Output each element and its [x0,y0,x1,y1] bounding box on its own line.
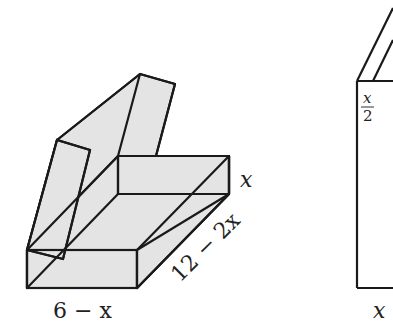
front-wall [27,250,137,288]
box-diagram: 6 − x x 12 − 2x x 2 x [0,0,393,336]
label-half-x-numerator: x [363,89,372,107]
back-wall [118,156,229,194]
label-bottom-x: x [373,298,386,323]
label-half-x-denominator: 2 [363,107,373,125]
side-panel [357,8,393,288]
label-width: 6 − x [53,298,112,323]
label-height: x [240,167,253,192]
